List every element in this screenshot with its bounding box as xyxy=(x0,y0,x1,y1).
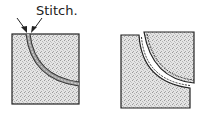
arrow-right-icon xyxy=(31,18,42,33)
right-panel xyxy=(121,32,194,108)
seam-diagram xyxy=(0,0,205,113)
left-panel xyxy=(12,18,79,104)
arrow-left-icon xyxy=(17,18,27,33)
